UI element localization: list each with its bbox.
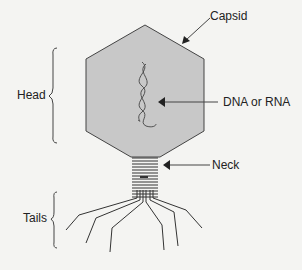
tails-label: Tails (23, 211, 47, 225)
nucleic-acid-label: DNA or RNA (223, 95, 290, 109)
neck-label: Neck (212, 158, 239, 172)
head-brace-icon (49, 48, 57, 143)
capsid-label: Capsid (210, 9, 247, 23)
tail-fibers (66, 190, 202, 252)
phage-diagram (0, 0, 302, 270)
capsid-arrow-icon (182, 18, 210, 44)
neck-arrow-icon (163, 160, 210, 170)
head-label: Head (17, 88, 46, 102)
tails-brace-icon (51, 192, 57, 248)
neck-collar (132, 158, 158, 197)
